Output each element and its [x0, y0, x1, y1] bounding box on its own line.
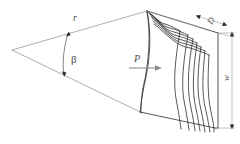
wedge-upper-flank: [12, 11, 147, 50]
front-face-flow-lines: [175, 31, 214, 132]
load-arrow-group: P: [129, 53, 162, 71]
depth-extension-lower: [219, 33, 229, 36]
block-top-face: [140, 11, 218, 128]
top-face-flow-lines: [148, 12, 209, 55]
width-dimension: w: [218, 32, 235, 130]
width-arrowhead-top: [230, 32, 234, 37]
depth-label: D: [204, 15, 217, 27]
angle-label: β: [71, 53, 77, 65]
radius-label: r: [73, 12, 77, 23]
load-label: P: [133, 53, 140, 64]
angle-arc-group: [62, 32, 71, 77]
load-arrow-head: [155, 65, 162, 71]
width-label: w: [221, 75, 231, 81]
wedge-indentation-diagram: D w P r β: [0, 0, 240, 144]
depth-arrowhead-right: [222, 22, 227, 26]
wedge-outline: [12, 11, 147, 112]
depth-arrowhead-left: [196, 15, 201, 19]
figure-root: D w P r β: [0, 0, 240, 144]
front-flow-line-4: [193, 43, 200, 131]
width-arrowhead-bottom: [230, 125, 234, 130]
angle-arc: [63, 33, 68, 75]
front-flow-line-3: [188, 39, 195, 131]
front-flow-line-7: [208, 55, 214, 132]
front-flow-line-1: [175, 31, 181, 129]
